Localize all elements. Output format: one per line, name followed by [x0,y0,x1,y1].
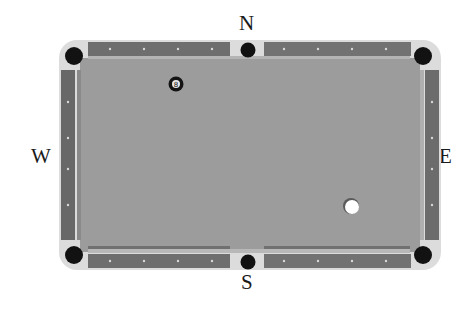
rail-right [425,70,439,240]
eight-ball: 8 [169,77,184,92]
pocket-bottom-middle [241,255,256,270]
pocket-top-middle [241,43,256,58]
cushion-bottom-light [88,249,410,253]
cushion-bottom [88,246,230,249]
rail-top-right [264,42,411,56]
cushion-left [77,70,81,240]
pocket-bottom-left [65,246,83,264]
rail-left [61,70,75,240]
cushion-bottom-r [264,246,410,249]
table-cloth [80,58,420,252]
pocket-bottom-right [414,246,432,264]
pocket-top-left [65,47,83,65]
svg-text:8: 8 [174,81,178,89]
cue-ball [343,198,359,214]
rail-bottom-right [264,254,411,268]
pool-table: 8 [0,0,466,310]
cushion-right [420,70,424,240]
pocket-top-right [414,47,432,65]
